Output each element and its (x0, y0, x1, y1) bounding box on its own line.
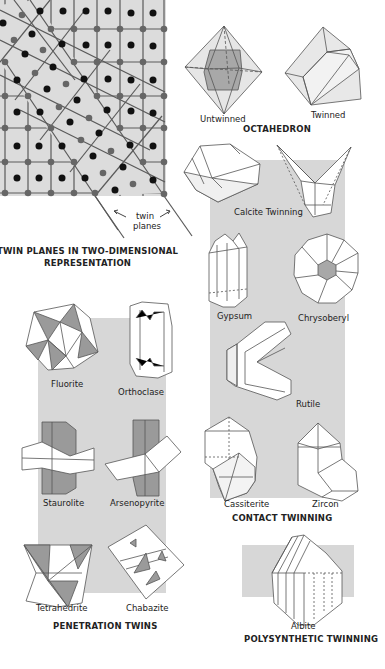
cassiterite-label: Cassiterite (224, 499, 269, 509)
contact-twinning-title: CONTACT TWINNING (232, 513, 332, 523)
tetrahedrite-label: Tetrahedrite (36, 603, 87, 613)
chrysoberyl-figure (292, 233, 362, 305)
rutile-figure (225, 320, 295, 392)
fluorite-figure (24, 302, 99, 372)
twin-planes-title-line2: REPRESENTATION (44, 258, 131, 268)
octahedron-title: OCTAHEDRON (243, 124, 311, 134)
staurolite-figure (20, 420, 96, 495)
cassiterite-figure (203, 417, 273, 505)
octahedron-twinned-figure (283, 27, 363, 107)
chabazite-figure (106, 523, 186, 601)
tetrahedrite-figure (22, 543, 94, 609)
albite-figure (268, 533, 348, 628)
chabazite-label: Chabazite (126, 603, 169, 613)
octahedron-untwinned-label: Untwinned (200, 114, 246, 124)
zircon-label: Zircon (312, 499, 339, 509)
polysynthetic-twinning-title: POLYSYNTHETIC TWINNING (244, 634, 378, 644)
gypsum-figure (205, 231, 253, 309)
rutile-label: Rutile (296, 399, 320, 409)
orthoclase-figure (128, 300, 174, 380)
arsenopyrite-figure (103, 418, 183, 498)
twin-planes-annotation-line1: twin (136, 211, 154, 221)
octahedron-twinned-label: Twinned (311, 110, 346, 120)
twin-planes-lattice-diagram (0, 0, 170, 240)
orthoclase-label: Orthoclase (118, 387, 164, 397)
penetration-twins-title: PENETRATION TWINS (53, 621, 157, 631)
octahedron-untwinned-figure (184, 24, 269, 114)
arsenopyrite-label: Arsenopyrite (110, 498, 164, 508)
twin-planes-title-line1: TWIN PLANES IN TWO-DIMENSIONAL (0, 246, 178, 256)
calcite-twinning-label: Calcite Twinning (234, 207, 303, 217)
chrysoberyl-label: Chrysoberyl (298, 313, 349, 323)
albite-label: Albite (291, 621, 316, 631)
calcite-twinning-left-figure (182, 144, 262, 204)
zircon-figure (296, 423, 358, 505)
fluorite-label: Fluorite (51, 379, 83, 389)
twin-planes-annotation-line2: planes (133, 221, 161, 231)
staurolite-label: Staurolite (43, 498, 84, 508)
